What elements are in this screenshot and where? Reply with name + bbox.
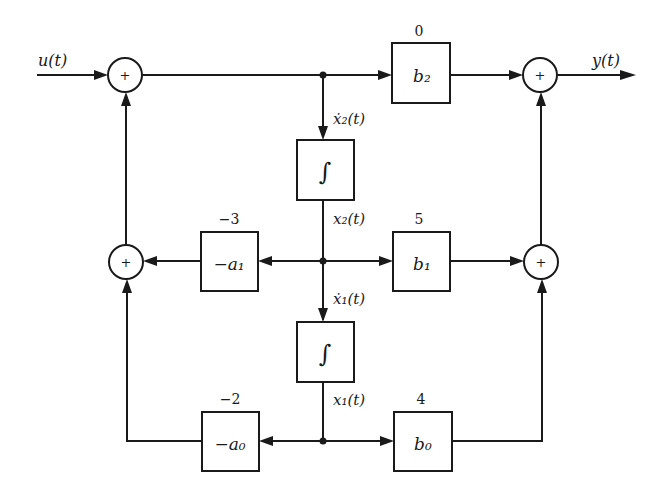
b2-label: b₂ [413,66,431,86]
arrow-into-feedback-sum [143,256,157,266]
b0-label: b₀ [414,434,432,454]
arrow-into-upper-integrator [318,126,328,140]
plus-sign: + [120,68,131,83]
arrow-into-output-sum-top [536,92,546,106]
block-diagram: u(t) + b₂ 0 + y(t) ẋ₂(t) ∫ x₂(t) [0,0,662,493]
output-signal: y(t) [557,51,636,80]
wire-neg-a0-to-feedback-sum [127,292,202,441]
x2-label: x₂(t) [333,210,365,228]
gain-block-neg-a1: −a₁ −3 [201,211,258,291]
b1-label: b₁ [413,254,431,274]
plus-sign: + [535,68,546,83]
plus-sign: + [536,255,547,270]
arrow-into-neg-a1 [258,256,272,266]
gain-block-b1: b₁ 5 [393,211,450,291]
plus-sign: + [121,255,132,270]
integrator-block-upper: ∫ [297,140,354,200]
feedback-summing-junction: + [109,245,143,279]
neg-a0-value: −2 [220,391,241,407]
arrow-into-input-sum [121,92,131,106]
gain-block-neg-a0: −a₀ −2 [202,391,259,471]
b0-value: 4 [417,391,426,407]
x2dot-label: ẋ₂(t) [333,110,365,128]
output-label: y(t) [591,51,620,70]
x1-label: x₁(t) [333,391,365,409]
neg-a0-label: −a₀ [214,434,245,454]
arrow-into-output-sum [509,70,523,80]
arrow-into-lower-integrator [318,308,328,322]
output-summing-junction-top: + [523,58,557,92]
input-summing-junction: + [108,58,142,92]
arrow-into-feedback-sum-bottom [122,279,132,293]
input-signal: u(t) [37,51,108,80]
arrow-into-b2 [378,70,392,80]
wire-b0-to-output-sum-mid [452,292,542,441]
neg-a1-label: −a₁ [213,254,244,274]
x1dot-label: ẋ₁(t) [333,290,365,308]
gain-block-b0: b₀ 4 [394,391,452,471]
arrow-into-b0 [380,436,394,446]
arrow-into-output-sum-mid [510,256,524,266]
arrow-into-neg-a0 [259,436,273,446]
neg-a1-value: −3 [219,211,240,227]
arrow-into-output-sum-mid-bottom [537,279,547,293]
arrow-into-b1 [379,256,393,266]
input-label: u(t) [38,51,67,70]
integral-symbol: ∫ [319,340,332,368]
gain-block-b2: b₂ 0 [392,23,450,103]
b2-value: 0 [415,23,424,39]
integrator-block-lower: ∫ [297,322,354,382]
b1-value: 5 [415,211,424,227]
integral-symbol: ∫ [319,158,332,186]
output-summing-junction-middle: + [524,245,558,279]
